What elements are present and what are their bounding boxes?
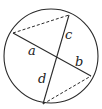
label-c: c bbox=[65, 27, 73, 42]
circle bbox=[4, 9, 98, 103]
label-a: a bbox=[28, 43, 36, 58]
label-d: d bbox=[38, 71, 46, 86]
label-b: b bbox=[75, 54, 83, 69]
dashed-segment-top bbox=[13, 15, 69, 33]
intersecting-chords-diagram: a b c d bbox=[0, 0, 102, 109]
